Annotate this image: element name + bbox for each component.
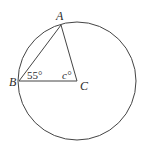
point-label-b: B — [9, 75, 17, 89]
angle-label-c: c° — [62, 69, 72, 81]
angle-label-b: 55° — [27, 69, 42, 81]
point-label-c: C — [80, 79, 89, 93]
point-label-a: A — [55, 9, 64, 23]
geometry-diagram: A B C 55° c° — [0, 0, 142, 152]
